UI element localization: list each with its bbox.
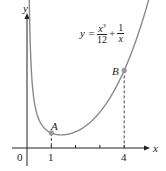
point-b-label: B [112, 66, 119, 77]
point-a-label: A [51, 121, 58, 132]
x-axis-arrow-icon [144, 146, 150, 151]
y-axis-label: y [23, 3, 28, 14]
eq-term2: 1 x [117, 23, 124, 44]
eq-plus: + [109, 27, 115, 39]
eq-term1: x3 12 [97, 21, 107, 45]
x-axis-label: x [153, 143, 158, 154]
eq-term1-exp: 3 [103, 23, 106, 29]
eq-term2-den: x [119, 34, 123, 44]
eq-term2-num: 1 [117, 23, 124, 34]
tick-label-4: 4 [121, 152, 127, 163]
point-b-marker [122, 68, 127, 73]
eq-lhs: y = [80, 27, 95, 39]
eq-term1-den: 12 [97, 35, 107, 45]
tick-label-0: 0 [17, 152, 23, 163]
function-equation: y = x3 12 + 1 x [80, 21, 126, 45]
tick-label-1: 1 [48, 152, 54, 163]
